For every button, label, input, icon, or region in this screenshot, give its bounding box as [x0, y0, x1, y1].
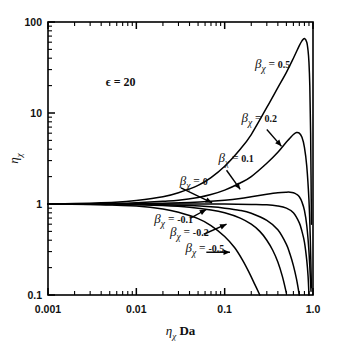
x-tick-label: 0.001 [35, 303, 61, 315]
epsilon-annotation: ϵ = 20 [106, 75, 136, 89]
y-tick-label: 1 [36, 198, 42, 210]
x-tick-label: 1.0 [306, 303, 321, 315]
x-tick-label: 0.01 [126, 303, 147, 315]
y-tick-label: 0.1 [27, 289, 42, 301]
figure-container: 0.0010.010.11.00.1110100ηχ Daηχ ϵ = 20βχ… [0, 0, 344, 345]
log-log-chart: 0.0010.010.11.00.1110100ηχ Daηχ ϵ = 20βχ… [0, 0, 344, 345]
chart-background [0, 0, 344, 345]
y-tick-label: 100 [24, 16, 42, 28]
y-tick-label: 10 [30, 107, 42, 119]
x-tick-label: 0.1 [217, 303, 232, 315]
